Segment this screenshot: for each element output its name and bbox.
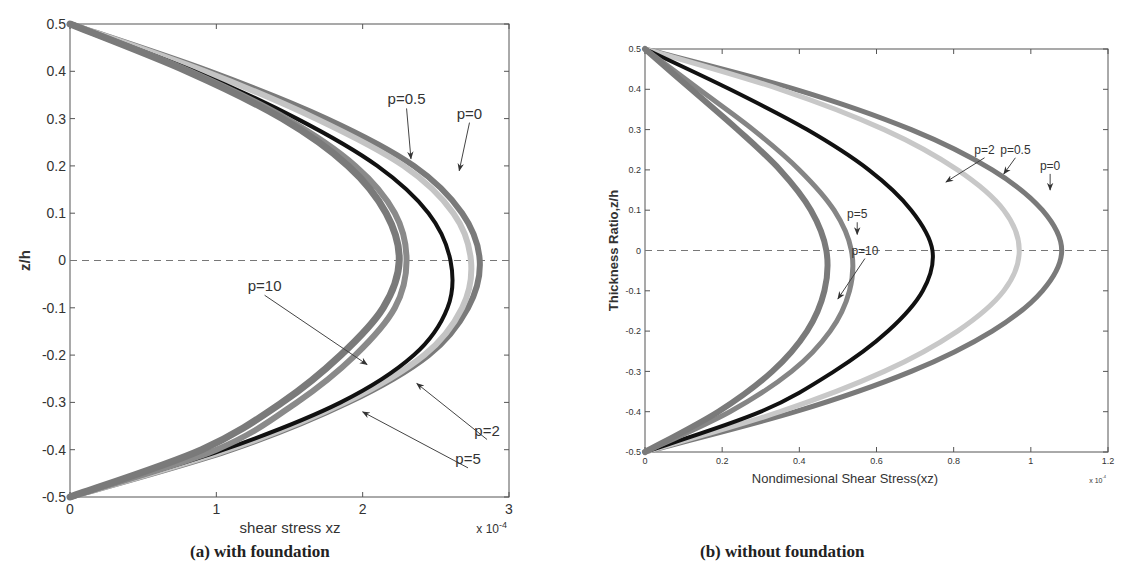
annotation-label: p=5 bbox=[847, 207, 868, 221]
figure-a-with-foundation: 0.50.40.30.20.10-0.1-0.2-0.3-0.4-0.50123… bbox=[0, 0, 590, 584]
y-axis-title: z/h bbox=[16, 250, 33, 271]
annotation-label: p=0 bbox=[457, 105, 482, 122]
y-axis-title: Thickness Ratio,z/h bbox=[606, 190, 621, 311]
y-tick-label: 0.2 bbox=[47, 158, 67, 174]
y-tick-label: -0.3 bbox=[42, 394, 66, 410]
x-tick-label: 1 bbox=[1028, 456, 1033, 466]
y-tick-label: 0.1 bbox=[628, 205, 641, 215]
y-tick-label: -0.5 bbox=[42, 489, 66, 505]
annotation-arrow bbox=[407, 108, 411, 158]
caption-a: (a) with foundation bbox=[190, 542, 330, 562]
y-tick-label: 0.3 bbox=[47, 111, 67, 127]
chart-b-plot: 0.50.40.30.20.10-0.1-0.2-0.3-0.4-0.500.2… bbox=[590, 0, 1140, 584]
x-tick-label: 2 bbox=[359, 501, 367, 517]
y-tick-label: -0.4 bbox=[625, 407, 641, 417]
y-tick-label: 0 bbox=[58, 252, 66, 268]
annotation-label: p=2 bbox=[474, 422, 499, 439]
y-tick-label: 0.2 bbox=[628, 165, 641, 175]
x-tick-label: 0 bbox=[642, 456, 647, 466]
x-axis-title: Nondimesional Shear Stress(xz) bbox=[752, 471, 938, 486]
annotation-arrow bbox=[265, 295, 367, 364]
figure-b-without-foundation: 0.50.40.30.20.10-0.1-0.2-0.3-0.4-0.500.2… bbox=[590, 0, 1140, 584]
y-tick-label: -0.2 bbox=[42, 347, 66, 363]
annotation-arrow bbox=[363, 412, 468, 468]
y-tick-label: 0.4 bbox=[628, 84, 641, 94]
x-tick-label: 0.6 bbox=[870, 456, 883, 466]
annotation-label: p=5 bbox=[455, 450, 480, 467]
y-tick-label: -0.4 bbox=[42, 442, 66, 458]
x-tick-label: 1.2 bbox=[1102, 456, 1115, 466]
y-tick-label: 0.3 bbox=[628, 125, 641, 135]
caption-b: (b) without foundation bbox=[700, 542, 864, 562]
annotation-label: p=2 bbox=[974, 143, 995, 157]
annotation-arrow bbox=[1004, 158, 1016, 174]
x-tick-label: 1 bbox=[212, 501, 220, 517]
annotation-arrow bbox=[946, 158, 985, 182]
y-tick-label: -0.1 bbox=[625, 286, 641, 296]
x-axis: 0123 bbox=[66, 24, 513, 517]
chart-a-plot: 0.50.40.30.20.10-0.1-0.2-0.3-0.4-0.50123… bbox=[0, 0, 590, 584]
annotation-label: p=10 bbox=[851, 244, 878, 258]
x-axis-title: shear stress xz bbox=[240, 519, 341, 536]
annotation-label: p=0.5 bbox=[1000, 143, 1031, 157]
annotation-label: p=0.5 bbox=[388, 90, 426, 107]
y-tick-label: 0 bbox=[636, 246, 641, 256]
y-tick-label: -0.1 bbox=[42, 300, 66, 316]
x-tick-label: 0.4 bbox=[793, 456, 806, 466]
x-tick-label: 0.8 bbox=[947, 456, 960, 466]
y-tick-label: -0.5 bbox=[625, 447, 641, 457]
x-multiplier: x 10-4 bbox=[1089, 474, 1107, 484]
y-tick-label: 0.5 bbox=[628, 44, 641, 54]
y-tick-label: -0.2 bbox=[625, 326, 641, 336]
annotation-label: p=0 bbox=[1040, 159, 1061, 173]
y-tick-label: -0.3 bbox=[625, 367, 641, 377]
x-tick-label: 3 bbox=[505, 501, 513, 517]
x-multiplier: x 10-4 bbox=[476, 520, 507, 536]
annotation-arrow bbox=[459, 123, 469, 171]
y-tick-label: 0.5 bbox=[47, 16, 67, 32]
x-tick-label: 0 bbox=[66, 501, 74, 517]
y-tick-label: 0.4 bbox=[47, 63, 67, 79]
x-tick-label: 0.2 bbox=[716, 456, 729, 466]
annotation-label: p=10 bbox=[248, 277, 282, 294]
y-tick-label: 0.1 bbox=[47, 205, 67, 221]
